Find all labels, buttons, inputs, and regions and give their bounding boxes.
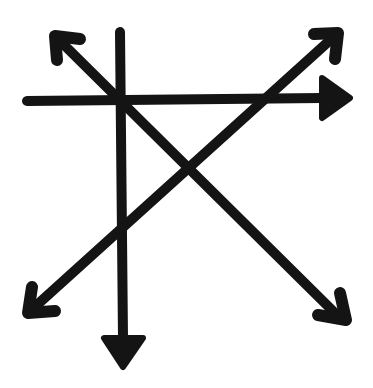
horizontal-arrow-shaft (27, 98, 322, 101)
arrowhead-down-icon (104, 338, 143, 367)
arrows-diagram (0, 0, 373, 388)
horizontal-arrow (27, 78, 350, 118)
arrowhead-right-icon (322, 78, 350, 118)
diagonal-nw-arrow-shaft (55, 36, 340, 318)
vertical-arrow (104, 32, 143, 367)
diagonal-nw-arrow (55, 36, 340, 318)
vertical-arrow-shaft (120, 32, 123, 338)
